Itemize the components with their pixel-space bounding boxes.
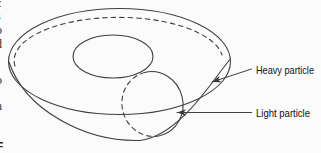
torus-hole (73, 35, 153, 78)
figure-page: c s o d - o - n t . F (0, 0, 321, 153)
heavy-particle-orbit-dashed (14, 17, 222, 66)
light-particle-label: Light particle (256, 107, 310, 119)
torus-outer-rim (9, 9, 231, 115)
torus-diagram: Heavy particle Light particle (0, 0, 321, 153)
heavy-particle-label: Heavy particle (256, 64, 314, 76)
tube-cross-section-front (145, 65, 190, 135)
tube-cross-section-back-dashed (115, 72, 160, 142)
